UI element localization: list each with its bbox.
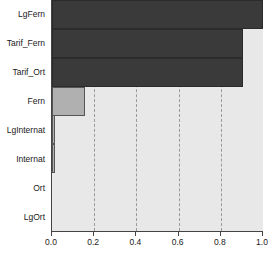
x-tick-label: 0.2 bbox=[87, 237, 99, 247]
category-axis-labels: LgOrtOrtInternatLgInternatFernTarif_OrtT… bbox=[0, 0, 48, 231]
x-tick bbox=[262, 232, 263, 236]
plot-area bbox=[51, 0, 263, 232]
bar bbox=[52, 58, 243, 87]
category-label: Tarif_Ort bbox=[12, 67, 45, 77]
bar bbox=[52, 29, 243, 58]
bar-chart: LgOrtOrtInternatLgInternatFernTarif_OrtT… bbox=[0, 0, 278, 265]
bar bbox=[52, 144, 55, 173]
category-label: LgInternat bbox=[7, 125, 45, 135]
category-label: LgOrt bbox=[24, 212, 45, 222]
x-axis: 0.00.20.40.60.81.0 bbox=[51, 232, 263, 256]
x-tick bbox=[220, 232, 221, 236]
x-tick-label: 0.4 bbox=[129, 237, 141, 247]
x-tick-label: 0.0 bbox=[45, 237, 57, 247]
bars-layer bbox=[52, 0, 263, 231]
category-label: Fern bbox=[28, 96, 45, 106]
bar bbox=[52, 87, 85, 116]
bar bbox=[52, 115, 55, 144]
category-label: LgFern bbox=[18, 9, 45, 19]
x-tick bbox=[93, 232, 94, 236]
x-tick bbox=[135, 232, 136, 236]
category-label: Tarif_Fern bbox=[7, 38, 45, 48]
x-tick-label: 1.0 bbox=[256, 237, 268, 247]
bar bbox=[52, 0, 263, 29]
category-label: Ort bbox=[33, 183, 45, 193]
x-tick bbox=[51, 232, 52, 236]
x-tick-label: 0.8 bbox=[214, 237, 226, 247]
x-tick bbox=[178, 232, 179, 236]
x-tick-label: 0.6 bbox=[172, 237, 184, 247]
category-label: Internat bbox=[16, 154, 45, 164]
